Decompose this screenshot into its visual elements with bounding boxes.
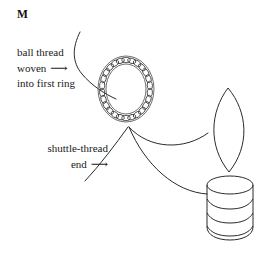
callout-shuttle-line-2-row: end⟶	[18, 157, 108, 173]
arrow-icon: ⟶	[87, 157, 108, 171]
ring-inner-guide	[106, 64, 146, 114]
callout-shuttle-line-2: end	[71, 158, 87, 170]
callout-ball-line-2: woven	[17, 62, 46, 74]
tatted-ring	[98, 56, 154, 122]
spool-band-3	[207, 226, 253, 236]
callout-shuttle-thread: shuttle-thread end⟶	[18, 141, 108, 172]
callout-ball-line-1: ball thread	[17, 45, 75, 61]
callout-shuttle-line-1: shuttle-thread	[18, 141, 108, 157]
spool-body	[207, 185, 253, 240]
arrow-icon: ⟶	[46, 61, 67, 75]
ring-stitch	[127, 57, 137, 64]
ring-stitch	[127, 113, 137, 120]
callout-ball-thread: ball thread woven⟶ into first ring	[17, 45, 75, 92]
spool-top-rim	[207, 176, 253, 194]
ring-stitch	[105, 62, 115, 72]
ring-stitch	[115, 113, 125, 120]
callout-ball-line-2-row: woven⟶	[17, 61, 75, 77]
ring-stitch	[115, 57, 125, 64]
callout-ball-line-3: into first ring	[17, 76, 75, 92]
ring-stitch	[137, 106, 147, 116]
chain-to-leaf-curve	[129, 127, 208, 145]
spool-band-1	[207, 199, 253, 209]
ring-stitch	[105, 106, 115, 116]
ring-stitch	[137, 62, 147, 72]
ring-stitch-group	[99, 57, 153, 121]
shuttle-spool	[207, 176, 253, 240]
figure-label: M	[17, 8, 28, 20]
spool-band-2	[207, 213, 253, 223]
second-ring-leaf	[214, 88, 244, 172]
ball-thread-curve	[74, 32, 116, 99]
diagram-canvas	[0, 0, 275, 253]
tatting-diagram: M ball thread woven⟶ into first ring shu…	[0, 0, 275, 253]
